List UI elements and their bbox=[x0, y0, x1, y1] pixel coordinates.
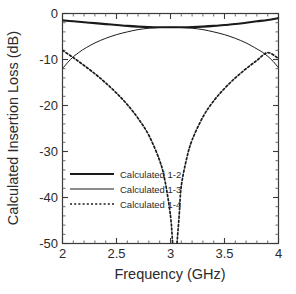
series-line-2 bbox=[63, 27, 279, 68]
legend-label: Calculated 1-2 bbox=[120, 168, 181, 181]
plot-area bbox=[0, 0, 296, 294]
series-line-1 bbox=[63, 18, 279, 27]
legend-item: Calculated 1-2 bbox=[70, 168, 195, 181]
legend-item: Calculated 1-3 bbox=[70, 183, 195, 196]
legend-label: Calculated 1-4 bbox=[120, 198, 181, 211]
chart-figure: Calculated Insertion Loss (dB) Frequency… bbox=[0, 0, 296, 294]
data-series-layer bbox=[63, 18, 279, 271]
legend-label: Calculated 1-3 bbox=[120, 183, 181, 196]
series-line-3 bbox=[63, 50, 279, 271]
chart-legend: Calculated 1-2Calculated 1-3Calculated 1… bbox=[70, 168, 195, 213]
legend-item: Calculated 1-4 bbox=[70, 198, 195, 211]
